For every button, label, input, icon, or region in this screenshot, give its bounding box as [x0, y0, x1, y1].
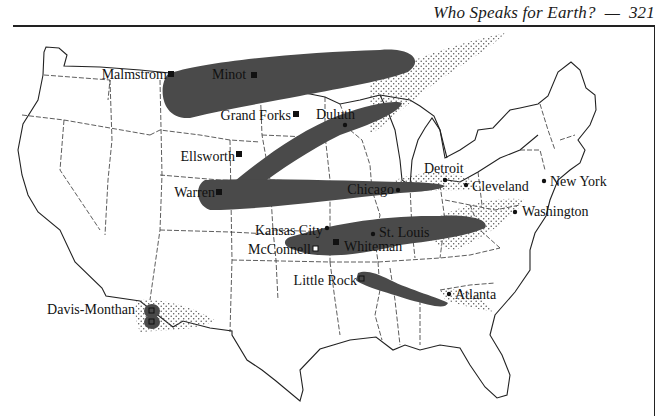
marker-cleveland[interactable] [464, 183, 468, 187]
label-duluth: Duluth [316, 107, 355, 122]
marker-warren[interactable] [216, 189, 222, 195]
label-washington: Washington [522, 204, 589, 219]
label-cleveland: Cleveland [472, 179, 529, 194]
label-malmstrom: Malmstrom [102, 67, 167, 82]
marker-atlanta[interactable] [447, 292, 451, 296]
marker-kansas-city[interactable] [325, 226, 329, 230]
label-little-rock: Little Rock [294, 273, 357, 288]
marker-grand-forks[interactable] [293, 111, 299, 117]
label-atlanta: Atlanta [455, 287, 497, 302]
marker-whiteman[interactable] [333, 239, 339, 245]
label-davis-monthan: Davis-Monthan [47, 302, 135, 317]
plume-warren-chicago [198, 179, 445, 210]
marker-minot[interactable] [251, 72, 257, 78]
label-minot: Minot [212, 67, 246, 82]
plume-littlerock-atlanta [356, 272, 448, 307]
marker-duluth[interactable] [343, 123, 347, 127]
plume-davis-monthan-2 [144, 315, 160, 329]
label-warren: Warren [174, 185, 215, 200]
label-grand-forks: Grand Forks [221, 108, 291, 123]
label-kansas-city: Kansas City [255, 223, 323, 238]
marker-new-york[interactable] [542, 179, 546, 183]
marker-st-louis[interactable] [371, 232, 375, 236]
label-detroit: Detroit [424, 161, 464, 176]
marker-washington[interactable] [513, 210, 517, 214]
label-whiteman: Whiteman [344, 239, 402, 254]
label-st-louis: St. Louis [379, 225, 430, 240]
marker-detroit[interactable] [443, 178, 447, 182]
label-mcconnell: McConnell [248, 242, 311, 257]
marker-mcconnell[interactable] [313, 246, 318, 251]
marker-chicago[interactable] [396, 188, 400, 192]
stipple-north [370, 33, 505, 135]
label-new-york: New York [550, 174, 607, 189]
marker-ellsworth[interactable] [236, 151, 242, 157]
marker-malmstrom[interactable] [168, 71, 174, 77]
label-chicago: Chicago [347, 182, 394, 197]
label-ellsworth: Ellsworth [181, 149, 235, 164]
